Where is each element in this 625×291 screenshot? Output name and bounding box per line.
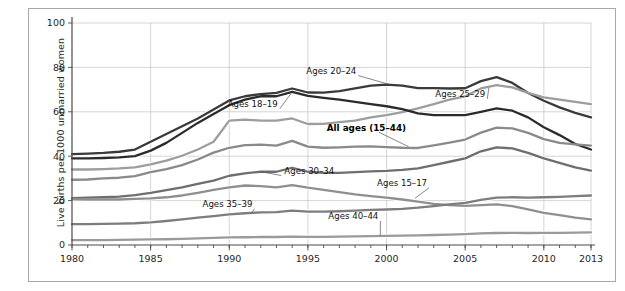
x-tick-label: 1980 [60, 253, 84, 264]
y-tick-label: 100 [47, 17, 65, 28]
y-tick-label: 80 [53, 62, 65, 73]
annotation-label-ages-40-44: Ages 40–44 [328, 211, 378, 221]
annotation-label-ages-25-29: Ages 25–29 [435, 89, 485, 99]
annotation-leader-ages-20-24 [358, 76, 389, 85]
annotation-leader-all-ages-15-44 [379, 132, 409, 147]
chart-figure: Live births per 1000 unmarried women 020… [0, 0, 625, 291]
x-tick-label: 2005 [453, 253, 477, 264]
x-tick-label: 1995 [296, 253, 320, 264]
annotation-label-all-ages-15-44: All ages (15–44) [327, 123, 406, 133]
annotation-leader-ages-25-29 [487, 88, 489, 99]
y-tick-label: 20 [53, 195, 65, 206]
annotation-label-ages-35-39: Ages 35–39 [203, 199, 253, 209]
y-tick-label: 0 [59, 239, 65, 250]
series-line-ages-40-44 [72, 232, 591, 240]
annotation-label-ages-20-24: Ages 20–24 [306, 66, 356, 76]
x-tick-label: 1985 [139, 253, 163, 264]
x-tick-label: 2010 [532, 253, 556, 264]
annotation-label-ages-15-17: Ages 15–17 [377, 178, 427, 188]
y-tick-label: 40 [53, 151, 65, 162]
line-chart-plot: 0204060801001980198519901995200020052010… [29, 9, 615, 281]
annotation-leader-ages-15-17 [415, 188, 429, 199]
annotation-label-ages-30-34: Ages 30–34 [284, 166, 334, 176]
chart-frame: Live births per 1000 unmarried women 020… [28, 8, 616, 282]
x-tick-label: 1990 [217, 253, 241, 264]
x-tick-label: 2013 [579, 253, 603, 264]
y-tick-label: 60 [53, 106, 65, 117]
x-tick-label: 2000 [374, 253, 398, 264]
annotation-label-ages-18-19: Ages 18–19 [228, 99, 278, 109]
